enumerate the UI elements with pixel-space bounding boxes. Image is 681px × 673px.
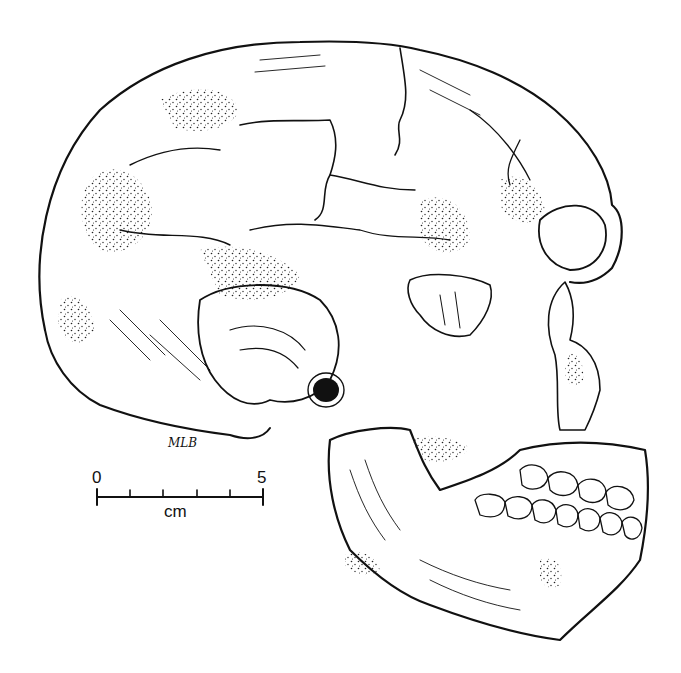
ear-canal-icon [313,378,339,402]
scale-unit-label: cm [164,503,187,520]
skull-illustration [0,0,681,673]
artist-signature: MLB [168,436,197,450]
zygomatic-fragment [408,275,491,337]
scale-start-label: 0 [92,469,101,486]
scale-end-label: 5 [257,469,266,486]
maxilla-column [548,282,600,430]
mandible [329,428,648,640]
temporal-region [198,285,344,407]
teeth [475,465,642,539]
